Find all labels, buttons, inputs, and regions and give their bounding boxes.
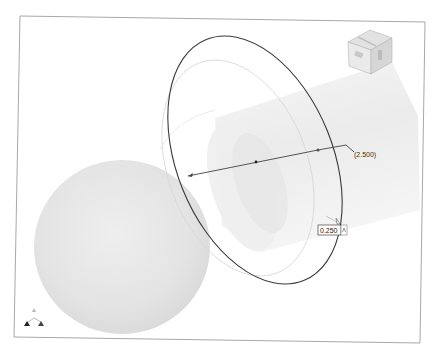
sphere-body[interactable] [34, 160, 210, 334]
dimension-unit-icon[interactable] [341, 225, 347, 235]
dimension-value-input[interactable]: 0.250 [320, 227, 338, 234]
driven-dimension-label[interactable]: (2.500) [354, 151, 376, 159]
viewport-canvas[interactable]: (2.500) 0.250 [0, 0, 438, 353]
intersection-point [316, 148, 319, 151]
center-point [255, 161, 258, 164]
